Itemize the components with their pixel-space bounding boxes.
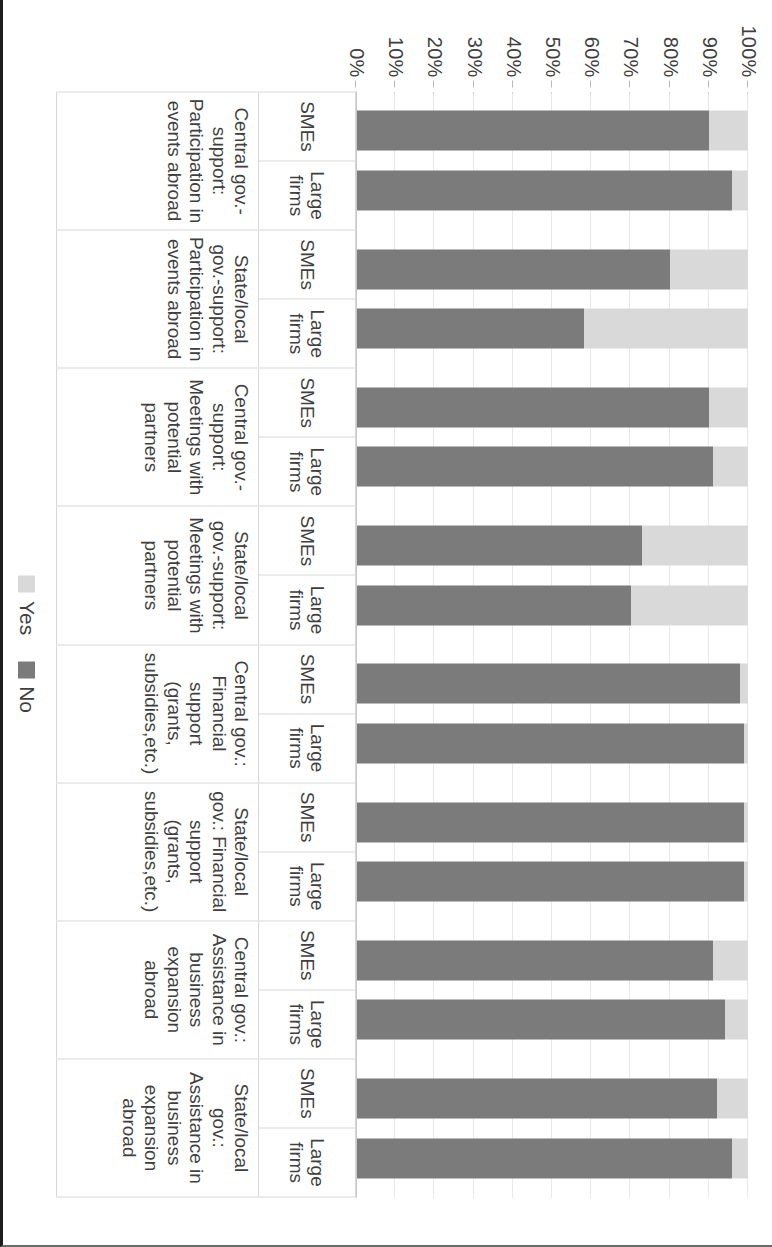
value-axis-tick-mark bbox=[472, 80, 473, 87]
bar-segment-yes[interactable] bbox=[724, 999, 747, 1039]
stacked-bar[interactable] bbox=[357, 663, 748, 703]
value-axis: 100%90%80%70%60%50%40%30%20%10%0% bbox=[356, 0, 748, 87]
value-axis-tick-label: 90% bbox=[697, 36, 720, 77]
bar-group bbox=[357, 644, 748, 782]
bar-segment-no[interactable] bbox=[357, 999, 725, 1039]
figure-page: 100%90%80%70%60%50%40%30%20%10%0% SMEsLa… bbox=[0, 0, 772, 1247]
bar-segment-no[interactable] bbox=[357, 110, 709, 150]
bar-segment-yes[interactable] bbox=[712, 446, 747, 486]
stacked-bar[interactable] bbox=[357, 861, 748, 901]
bar-segment-yes[interactable] bbox=[630, 585, 747, 625]
category-size-row: SMEsLarge firms bbox=[258, 506, 356, 643]
bar-segment-no[interactable] bbox=[357, 940, 713, 980]
value-axis-tick-mark bbox=[511, 80, 512, 87]
value-axis-tick-mark bbox=[590, 80, 591, 87]
stacked-bar[interactable] bbox=[357, 249, 748, 289]
value-axis-tick-mark bbox=[707, 80, 708, 87]
bar-segment-no[interactable] bbox=[357, 663, 740, 703]
category-size-row: SMEsLarge firms bbox=[258, 783, 356, 920]
stacked-bar[interactable] bbox=[357, 1138, 748, 1178]
bar-segment-yes[interactable] bbox=[744, 802, 748, 842]
bar-segment-no[interactable] bbox=[357, 861, 744, 901]
category-size-label: Large firms bbox=[259, 713, 355, 782]
stacked-bar[interactable] bbox=[357, 110, 748, 150]
category-size-label: Large firms bbox=[259, 1127, 355, 1196]
category-axis: SMEsLarge firmsCentral gov.-support: Par… bbox=[56, 91, 356, 1197]
stacked-bar[interactable] bbox=[357, 387, 748, 427]
category-size-row: SMEsLarge firms bbox=[258, 921, 356, 1058]
bar-segment-yes[interactable] bbox=[744, 723, 748, 763]
category-size-label: SMEs bbox=[259, 783, 355, 851]
bar-segment-yes[interactable] bbox=[732, 170, 748, 210]
bar-segment-no[interactable] bbox=[357, 249, 670, 289]
legend-label-yes: Yes bbox=[15, 600, 39, 634]
bar-segment-yes[interactable] bbox=[642, 525, 748, 565]
bar-segment-no[interactable] bbox=[357, 170, 732, 210]
stacked-bar[interactable] bbox=[357, 802, 748, 842]
bar-segment-no[interactable] bbox=[357, 723, 744, 763]
bar-segment-no[interactable] bbox=[357, 525, 642, 565]
bar-segment-yes[interactable] bbox=[740, 663, 748, 703]
stacked-bar[interactable] bbox=[357, 723, 748, 763]
bar-segment-yes[interactable] bbox=[669, 249, 747, 289]
stacked-bar[interactable] bbox=[357, 585, 748, 625]
legend-item-yes: Yes bbox=[15, 575, 39, 634]
stacked-bar[interactable] bbox=[357, 999, 748, 1039]
value-axis-tick-mark bbox=[747, 80, 748, 87]
value-axis-tick-label: 40% bbox=[501, 36, 524, 77]
bar-group bbox=[357, 506, 748, 644]
stacked-bar[interactable] bbox=[357, 1078, 748, 1118]
category-size-label: Large firms bbox=[259, 989, 355, 1058]
category-group-label: State/local gov.: Financial support (gra… bbox=[56, 783, 258, 920]
plot-box bbox=[356, 91, 748, 1197]
bar-segment-no[interactable] bbox=[357, 308, 584, 348]
bar-group bbox=[357, 921, 748, 1059]
category-group-label: Central gov.-support: Meetings with pote… bbox=[56, 368, 258, 505]
bar-segment-yes[interactable] bbox=[716, 1078, 747, 1118]
bar-group bbox=[357, 91, 748, 229]
category-group: SMEsLarge firmsCentral gov.-support: Mee… bbox=[56, 367, 356, 505]
bar-segment-yes[interactable] bbox=[744, 861, 748, 901]
bar-group bbox=[357, 229, 748, 367]
bar-group bbox=[357, 782, 748, 920]
bar-segment-no[interactable] bbox=[357, 387, 709, 427]
stacked-bar[interactable] bbox=[357, 308, 748, 348]
bar-segment-no[interactable] bbox=[357, 1078, 717, 1118]
value-axis-tick-label: 0% bbox=[344, 48, 367, 77]
chart-stage: 100%90%80%70%60%50%40%30%20%10%0% SMEsLa… bbox=[2, 0, 772, 1246]
stacked-bar[interactable] bbox=[357, 525, 748, 565]
category-size-label: SMEs bbox=[259, 506, 355, 574]
category-size-label: SMEs bbox=[259, 368, 355, 436]
stacked-bar[interactable] bbox=[357, 170, 748, 210]
category-size-label: Large firms bbox=[259, 436, 355, 505]
bar-segment-yes[interactable] bbox=[708, 387, 747, 427]
category-size-row: SMEsLarge firms bbox=[258, 230, 356, 367]
stacked-bar[interactable] bbox=[357, 940, 748, 980]
legend-swatch-yes-icon bbox=[18, 575, 35, 592]
category-group: SMEsLarge firmsCentral gov.: Assistance … bbox=[56, 920, 356, 1058]
category-size-row: SMEsLarge firms bbox=[258, 1059, 356, 1196]
category-group: SMEsLarge firmsCentral gov.-support: Par… bbox=[56, 91, 356, 229]
bar-segment-yes[interactable] bbox=[583, 308, 747, 348]
bar-segment-no[interactable] bbox=[357, 802, 744, 842]
bar-segment-yes[interactable] bbox=[708, 110, 747, 150]
bar-segment-yes[interactable] bbox=[712, 940, 747, 980]
value-axis-tick-label: 30% bbox=[462, 36, 485, 77]
legend-item-no: No bbox=[15, 661, 39, 713]
category-size-label: SMEs bbox=[259, 645, 355, 713]
category-size-label: Large firms bbox=[259, 298, 355, 367]
category-size-row: SMEsLarge firms bbox=[258, 645, 356, 782]
bar-segment-no[interactable] bbox=[357, 1138, 732, 1178]
category-size-row: SMEsLarge firms bbox=[258, 92, 356, 229]
category-size-label: SMEs bbox=[259, 1059, 355, 1127]
bar-segment-no[interactable] bbox=[357, 585, 631, 625]
plot-area bbox=[356, 91, 748, 1197]
category-group-label: State/local gov.-support: Meetings with … bbox=[56, 506, 258, 643]
bar-segment-yes[interactable] bbox=[732, 1138, 748, 1178]
category-group: SMEsLarge firmsState/local gov.: Assista… bbox=[56, 1058, 356, 1197]
category-group-label: Central gov.: Financial support (grants,… bbox=[56, 645, 258, 782]
legend-label-no: No bbox=[15, 686, 39, 713]
stacked-bar[interactable] bbox=[357, 446, 748, 486]
bar-group bbox=[357, 368, 748, 506]
bar-segment-no[interactable] bbox=[357, 446, 713, 486]
